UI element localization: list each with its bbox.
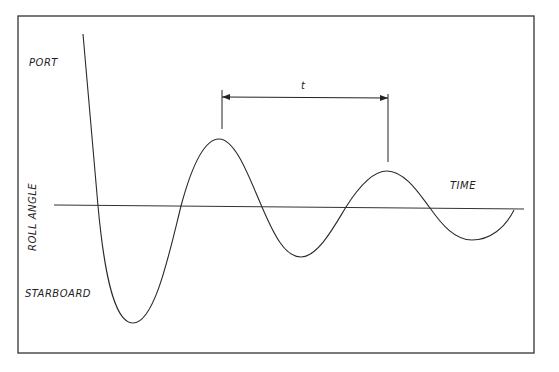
period-label: t: [301, 80, 305, 91]
time-label: TIME: [450, 180, 476, 191]
period-arrow-line: [222, 97, 388, 98]
starboard-label: STARBOARD: [25, 288, 91, 299]
time-axis: [54, 205, 524, 209]
arrowhead-right-icon: [380, 95, 388, 101]
arrowhead-left-icon: [222, 94, 230, 100]
port-label: PORT: [29, 57, 58, 68]
roll-angle-label: ROLL ANGLE: [27, 183, 38, 251]
roll-curve: [83, 34, 514, 323]
